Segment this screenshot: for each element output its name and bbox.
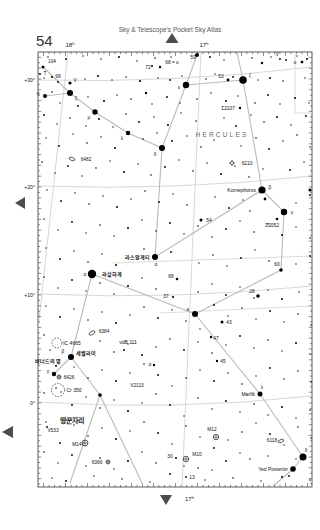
ra-label-17h-bottom: 17ʰ	[185, 496, 194, 502]
star	[223, 59, 224, 60]
star	[172, 296, 174, 298]
star	[118, 56, 120, 58]
star	[126, 131, 130, 135]
star	[59, 442, 61, 444]
star	[306, 58, 308, 60]
nav-arrow-up[interactable]	[166, 33, 179, 43]
star	[296, 55, 297, 56]
star	[295, 263, 296, 264]
star	[251, 57, 253, 59]
star-label: Cr 350	[66, 387, 81, 393]
star-label: 68	[168, 274, 174, 279]
star	[65, 58, 67, 60]
star-label: 99	[55, 74, 61, 79]
star	[241, 383, 243, 385]
star	[254, 249, 255, 250]
star-label: +20°	[24, 184, 35, 190]
star	[196, 98, 198, 100]
constellation-line	[281, 212, 284, 270]
star	[149, 481, 150, 482]
star	[282, 140, 283, 141]
nav-arrow-left[interactable]	[15, 197, 25, 209]
star	[43, 334, 45, 336]
star	[249, 210, 251, 212]
star	[258, 392, 263, 397]
star	[73, 250, 74, 251]
star	[113, 468, 114, 469]
star	[71, 454, 73, 456]
star	[141, 354, 143, 356]
star-label: β	[269, 185, 272, 190]
star	[279, 268, 283, 272]
star	[129, 314, 130, 315]
star-label: σ	[149, 362, 152, 367]
star	[130, 198, 131, 199]
nav-arrow-down[interactable]	[160, 495, 172, 505]
star	[171, 309, 172, 310]
star-label: μ	[88, 115, 91, 120]
star	[170, 251, 172, 253]
star	[99, 407, 101, 409]
star	[204, 479, 205, 480]
star-label: δ	[154, 152, 157, 157]
star	[116, 94, 117, 95]
nav-arrow-left[interactable]	[2, 426, 13, 438]
star-label: Σ2052	[265, 223, 279, 228]
star	[130, 98, 132, 100]
constellation-line	[237, 52, 243, 80]
star	[185, 425, 187, 427]
star	[179, 102, 180, 103]
star	[153, 116, 154, 117]
star-label: V2113	[130, 383, 144, 388]
map-labels: +30°+20°+10°0°104T99Vοξμλδ7268 = u5953ζV…	[24, 52, 308, 480]
star	[127, 285, 129, 287]
star	[145, 92, 147, 94]
star	[73, 308, 74, 309]
star	[209, 56, 211, 58]
star	[52, 372, 56, 376]
star	[151, 65, 153, 67]
star	[141, 451, 142, 452]
star-label: Kornephoros	[227, 187, 256, 193]
star	[309, 479, 311, 481]
star	[186, 204, 188, 206]
constellation-line	[92, 274, 195, 314]
star-label: β	[62, 349, 65, 354]
star	[213, 447, 215, 449]
star	[176, 278, 179, 281]
star	[102, 195, 103, 196]
star	[99, 224, 101, 226]
star	[267, 289, 268, 290]
star	[85, 232, 86, 233]
star-label: vdB 111	[119, 339, 137, 345]
star	[183, 349, 185, 351]
star	[115, 322, 117, 324]
star	[263, 121, 265, 123]
star	[111, 79, 112, 80]
star-label: 13	[189, 475, 195, 480]
star	[212, 254, 214, 256]
star-label: 6384	[99, 329, 110, 334]
star	[289, 169, 291, 171]
star	[125, 113, 127, 115]
constellation-line	[155, 190, 262, 257]
star	[65, 480, 67, 482]
ra-label-18h-top: 18ʰ	[66, 42, 75, 48]
star	[283, 378, 284, 379]
star	[43, 392, 45, 394]
star	[225, 294, 227, 296]
star	[143, 248, 145, 250]
star	[242, 199, 243, 200]
star	[226, 265, 227, 266]
star	[159, 145, 165, 151]
star	[171, 443, 172, 444]
star	[46, 189, 47, 190]
star-label: 라스알게티	[125, 254, 150, 261]
star-label: λ	[121, 136, 124, 141]
star	[225, 100, 227, 102]
star	[255, 137, 257, 139]
star	[115, 264, 117, 266]
star	[155, 288, 157, 290]
star	[253, 347, 254, 348]
star	[227, 315, 228, 316]
